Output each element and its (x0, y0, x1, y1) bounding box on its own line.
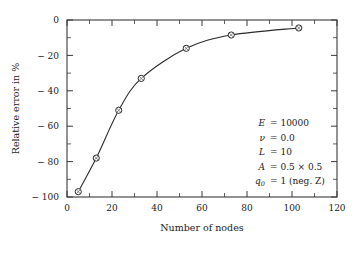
y-axis-title: Relative error in % (10, 63, 21, 155)
annotation-symbol: ν (260, 133, 266, 143)
annotation-value: = 0.0 (270, 133, 295, 143)
data-point-marker (93, 155, 99, 161)
x-axis-tick-label: 60 (196, 203, 208, 213)
y-axis-tick-labels: 0− 20− 40− 60− 80− 100 (31, 15, 59, 202)
x-axis-major-ticks (67, 191, 337, 197)
top-axis-ticks (67, 20, 337, 26)
y-axis-tick-label: − 40 (37, 86, 59, 96)
y-axis-tick-label: 0 (53, 15, 59, 25)
data-point-marker (75, 189, 81, 195)
annotation-value: = 1 (neg. Z) (270, 176, 325, 186)
y-axis-tick-label: − 20 (37, 51, 59, 61)
annotation-value: = 10 (270, 147, 292, 157)
relative-error-line-chart: 0− 20− 40− 60− 80− 100 020406080100120 N… (0, 0, 360, 256)
data-marker-group (75, 25, 302, 195)
y-axis-tick-label: − 100 (31, 192, 59, 202)
y-axis-tick-label: − 60 (37, 121, 59, 131)
annotation-symbol: A (258, 162, 266, 172)
data-curve-relative-error (78, 28, 299, 192)
y-axis-minor-ticks (67, 38, 71, 180)
x-axis-tick-label: 100 (283, 203, 300, 213)
x-axis-tick-label: 120 (328, 203, 345, 213)
annotation-subscript: 0 (261, 180, 265, 188)
x-axis-tick-label: 0 (64, 203, 70, 213)
x-axis-tick-label: 20 (106, 203, 118, 213)
annotation-value: = 10000 (270, 118, 309, 128)
data-point-marker (296, 25, 302, 31)
annotation-symbol: q0 (255, 176, 265, 188)
x-axis-tick-labels: 020406080100120 (64, 203, 346, 213)
y-axis-tick-label: − 80 (37, 157, 59, 167)
data-point-marker (183, 45, 189, 51)
right-axis-ticks (331, 20, 337, 197)
data-point-marker (138, 75, 144, 81)
data-point-marker (228, 32, 234, 38)
x-axis-title: Number of nodes (160, 222, 244, 233)
x-axis-tick-label: 40 (151, 203, 163, 213)
annotation-value: = 0.5 × 0.5 (270, 162, 323, 172)
figure-container: 0− 20− 40− 60− 80− 100 020406080100120 N… (0, 0, 360, 256)
annotation-symbol: L (258, 147, 265, 157)
annotation-symbol: E (257, 118, 265, 128)
x-axis-tick-label: 80 (241, 203, 253, 213)
data-point-marker (116, 107, 122, 113)
parameter-annotation-block: E= 10000ν= 0.0L= 10A= 0.5 × 0.5q0= 1 (ne… (255, 118, 325, 188)
